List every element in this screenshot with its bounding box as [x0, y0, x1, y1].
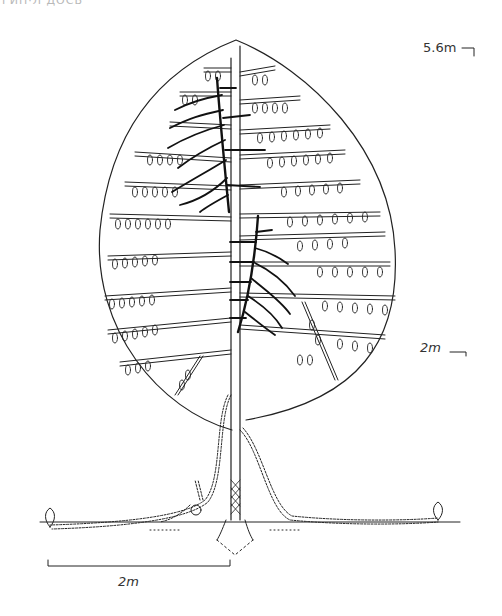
height-label-mid: 2m — [420, 340, 441, 355]
taproot-dotted — [217, 540, 253, 555]
runners — [50, 395, 438, 529]
horizontal-scale-label: 2m — [118, 574, 139, 589]
scale-bar — [48, 560, 230, 566]
height-label-top: 5.6m — [423, 40, 456, 55]
runner-buds — [46, 502, 443, 527]
tree-diagram — [0, 0, 502, 616]
height-marker-mid — [450, 352, 466, 356]
crown-outline — [99, 40, 395, 430]
trunk-base-hatching — [231, 480, 240, 514]
left-branches — [105, 68, 231, 395]
leaflets — [110, 71, 388, 390]
height-marker-top — [462, 48, 474, 56]
root-base — [217, 520, 253, 540]
